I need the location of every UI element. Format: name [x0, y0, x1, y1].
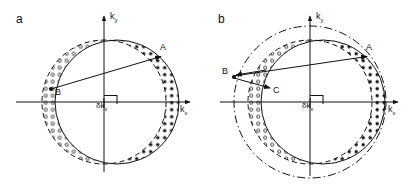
panel-b-drawing [206, 0, 413, 184]
delta-kx-label: δkx [96, 101, 107, 112]
deficit-holes-region [0, 0, 206, 184]
point-a-label: A [160, 42, 166, 52]
ky-axis-label: ky [316, 11, 324, 23]
figure-root: a [0, 0, 413, 184]
panel-b: b [206, 0, 413, 184]
point-b-label: B [55, 87, 61, 97]
point-a-label: A [366, 42, 372, 52]
point-c-label: C [273, 85, 280, 95]
kx-axis-label: kx [180, 104, 188, 116]
panel-a-drawing [0, 0, 206, 184]
panel-a: a [0, 0, 206, 184]
ky-axis-label: ky [110, 11, 118, 23]
delta-kx-label: δkx [302, 101, 313, 112]
kx-axis-label: kx [388, 104, 396, 116]
point-b-label: B [222, 66, 228, 76]
